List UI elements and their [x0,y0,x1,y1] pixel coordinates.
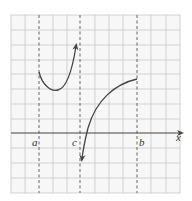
label-c: c [72,136,77,148]
x-axis-label: x [175,131,181,143]
label-a: a [32,136,38,148]
label-b: b [139,136,145,148]
function-graph: x a c b [0,0,192,201]
